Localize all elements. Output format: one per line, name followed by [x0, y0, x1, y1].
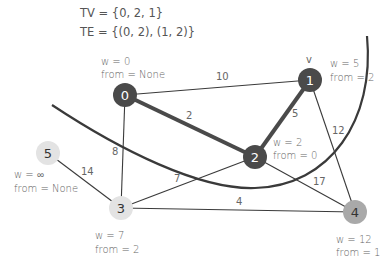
edge-5-3: [48, 153, 121, 208]
node-0-label: 0: [121, 88, 129, 103]
edge-weight-1-4: 12: [332, 125, 345, 136]
edge-2-3: [121, 157, 255, 208]
edge-weight-2-3: 7: [174, 173, 180, 184]
node-3-weight: w = 7: [95, 230, 124, 241]
edge-3-4: [121, 208, 355, 212]
edge-weight-0-2: 2: [186, 110, 192, 121]
node-4-weight: w = 12: [336, 234, 372, 245]
current-vertex-marker: v: [306, 54, 312, 65]
node-0-from: from = None: [101, 69, 165, 80]
node-3-from: from = 2: [95, 244, 139, 255]
node-1-label: 1: [306, 73, 314, 88]
edge-0-3: [121, 95, 125, 208]
node-4: 4: [343, 200, 367, 224]
node-4-from: from = 1: [336, 247, 380, 258]
edge-weight-3-4: 4: [236, 196, 242, 207]
edge-weight-1-2: 5: [292, 108, 298, 119]
tv-set-label: TV = {0, 2, 1}: [79, 6, 163, 20]
edge-weight-0-3: 8: [112, 146, 118, 157]
node-0: 0: [113, 83, 137, 107]
node-1-weight: w = 5: [330, 58, 359, 69]
node-5: 5: [36, 141, 60, 165]
node-2-label: 2: [251, 150, 259, 165]
node-2: 2: [243, 145, 267, 169]
node-2-from: from = 0: [273, 150, 317, 161]
node-3: 3: [109, 196, 133, 220]
edge-1-4: [310, 80, 355, 212]
node-0-weight: w = 0: [101, 56, 130, 67]
node-1-from: from = 2: [330, 72, 374, 83]
node-5-weight: w = ∞: [14, 169, 44, 180]
node-3-label: 3: [117, 201, 125, 216]
node-5-from: from = None: [14, 183, 78, 194]
te-set-label: TE = {(0, 2), (1, 2)}: [79, 25, 195, 39]
edge-2-4: [255, 157, 355, 212]
tree-edge-0-2: [125, 95, 255, 157]
edge-weight-0-1: 10: [216, 71, 229, 82]
edge-weight-2-4: 17: [313, 176, 326, 187]
node-5-label: 5: [44, 146, 52, 161]
node-4-label: 4: [351, 205, 359, 220]
edge-weight-5-3: 14: [81, 166, 94, 177]
node-2-weight: w = 2: [273, 137, 302, 148]
graph-diagram: TV = {0, 2, 1} TE = {(0, 2), (1, 2)} 10 …: [0, 0, 385, 268]
edge-0-1: [125, 80, 310, 95]
node-1: 1: [298, 68, 322, 92]
